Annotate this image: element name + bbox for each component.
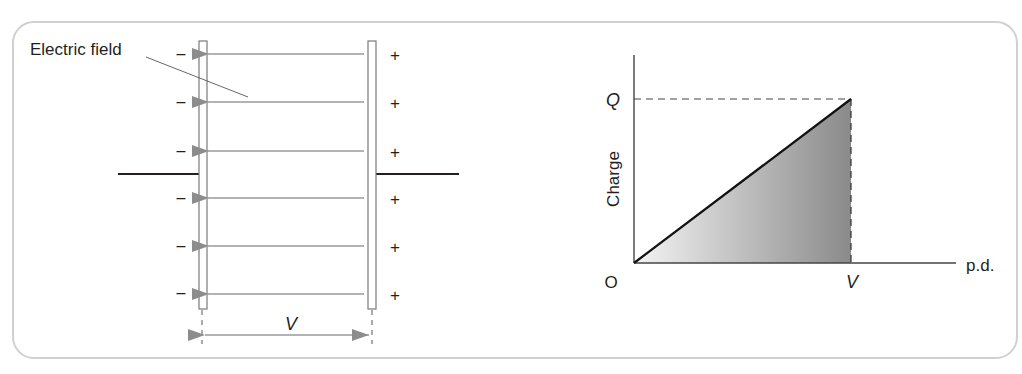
pd-label: V xyxy=(285,314,299,334)
charge-pd-graph: Q O V p.d. Charge xyxy=(604,55,994,292)
negative-sign: – xyxy=(177,237,186,254)
positive-sign: + xyxy=(390,286,400,305)
y-axis-label: Charge xyxy=(604,151,623,207)
x-axis-label: p.d. xyxy=(966,256,994,275)
negative-plate xyxy=(199,41,207,309)
negative-sign: – xyxy=(177,284,186,301)
field-lines xyxy=(208,54,364,294)
positive-sign: + xyxy=(390,46,400,65)
q-label: Q xyxy=(606,90,620,110)
negative-sign: – xyxy=(177,189,186,206)
negative-sign: – xyxy=(177,45,186,62)
positive-sign: + xyxy=(390,143,400,162)
positive-signs: + + + + + + xyxy=(390,46,400,305)
v-label: V xyxy=(846,272,860,292)
positive-sign: + xyxy=(390,94,400,113)
capacitor-diagram: – – – – – – + + + + + + Electric field V xyxy=(30,40,459,344)
positive-sign: + xyxy=(390,238,400,257)
positive-plate xyxy=(368,41,376,309)
negative-sign: – xyxy=(177,142,186,159)
negative-sign: – xyxy=(177,93,186,110)
origin-label: O xyxy=(604,273,617,292)
electric-field-label: Electric field xyxy=(30,40,122,59)
figure-canvas: – – – – – – + + + + + + Electric field V xyxy=(0,0,1022,374)
electric-field-leader-line xyxy=(146,57,248,97)
positive-sign: + xyxy=(390,190,400,209)
